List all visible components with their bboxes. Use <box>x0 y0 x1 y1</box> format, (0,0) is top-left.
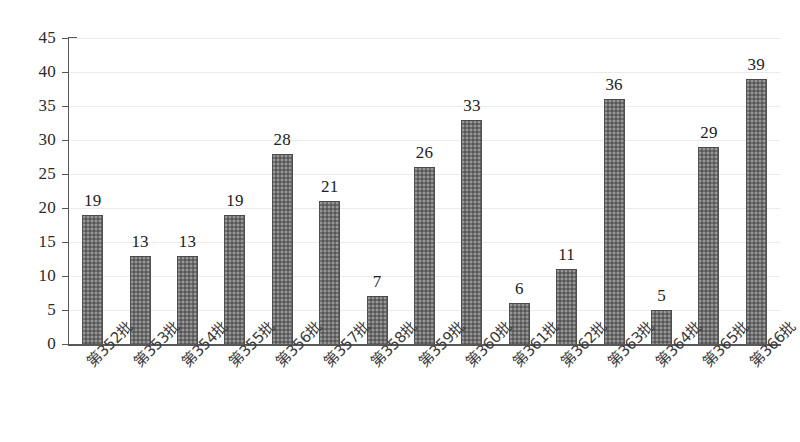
bar-value-label: 7 <box>350 273 404 290</box>
y-axis-tick-label: 0 <box>16 335 56 352</box>
bar-value-label: 39 <box>729 56 783 73</box>
y-axis-tick-label: 5 <box>16 301 56 318</box>
bar-value-label: 6 <box>492 280 546 297</box>
bar-value-label: 13 <box>161 233 215 250</box>
bar <box>746 79 767 344</box>
bar <box>461 120 482 344</box>
bar <box>414 167 435 344</box>
bar-value-label: 28 <box>255 131 309 148</box>
bar-value-label: 26 <box>398 144 452 161</box>
bar <box>604 99 625 344</box>
grid-line <box>69 140 780 141</box>
y-axis-tick <box>62 310 69 311</box>
y-axis-tick <box>62 242 69 243</box>
bar <box>319 201 340 344</box>
y-axis-tick <box>62 344 69 345</box>
y-axis-tick <box>62 38 69 39</box>
y-axis-tick-label: 45 <box>16 29 56 46</box>
grid-line <box>69 38 780 39</box>
y-axis-tick <box>62 174 69 175</box>
y-axis-tick-label: 30 <box>16 131 56 148</box>
bar-value-label: 11 <box>540 246 594 263</box>
bar-value-label: 29 <box>682 124 736 141</box>
y-axis-tick-label: 35 <box>16 97 56 114</box>
y-axis-tick <box>62 106 69 107</box>
bar-value-label: 36 <box>587 76 641 93</box>
y-axis-tick-label: 15 <box>16 233 56 250</box>
y-axis-tick-label: 40 <box>16 63 56 80</box>
y-axis-tick <box>62 72 69 73</box>
y-axis-tick <box>62 140 69 141</box>
bar-value-label: 19 <box>66 192 120 209</box>
bar <box>82 215 103 344</box>
y-axis-tick-label: 25 <box>16 165 56 182</box>
grid-line <box>69 106 780 107</box>
bar <box>698 147 719 344</box>
bar-value-label: 21 <box>303 178 357 195</box>
grid-line <box>69 72 780 73</box>
bar <box>272 154 293 344</box>
y-axis-tick <box>62 276 69 277</box>
bar-value-label: 19 <box>208 192 262 209</box>
y-axis-tick-label: 10 <box>16 267 56 284</box>
y-axis-tick-label: 20 <box>16 199 56 216</box>
bar-value-label: 13 <box>113 233 167 250</box>
bar-value-label: 33 <box>445 97 499 114</box>
bar-value-label: 5 <box>635 287 689 304</box>
